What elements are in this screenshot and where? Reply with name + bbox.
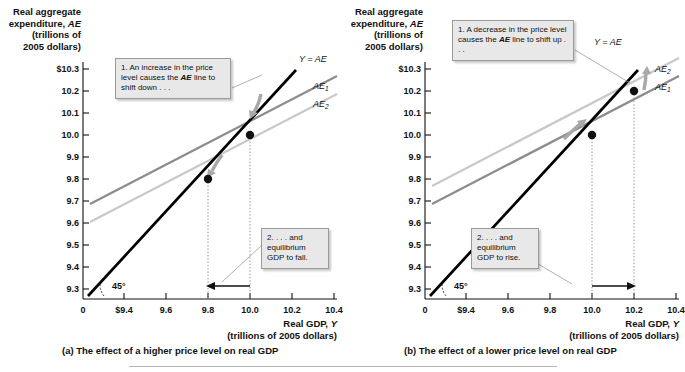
y-tick-label: 9.9 <box>66 152 79 162</box>
y-tick-label: 9.7 <box>66 196 79 206</box>
panel-a-angle-label: 45° <box>112 281 126 291</box>
panel-a-higher-price-level: Real aggregate expenditure, AE (trillion… <box>0 0 343 372</box>
y-tick-label: 9.8 <box>408 174 421 184</box>
y-tick-label: 10.2 <box>61 86 79 96</box>
panel-a-point-new-equilibrium <box>204 175 212 183</box>
panel-a-chart: $10.3 10.2 10.1 10.0 9.9 9.8 9.7 9.6 9.5… <box>0 0 343 372</box>
x-tick-label: 10.0 <box>241 305 259 315</box>
x-axis-title-line-1: Real GDP, Y <box>625 318 679 329</box>
panel-a-callout-1-leader <box>232 75 262 88</box>
y-tick-label: $10.3 <box>398 64 421 74</box>
panel-b-y-tick-labels: $10.3 10.2 10.1 10.0 9.9 9.8 9.7 9.6 9.5… <box>398 64 421 294</box>
panel-a-y-ticks <box>83 69 89 289</box>
y-tick-label: 9.3 <box>408 284 421 294</box>
y-tick-label: 9.6 <box>408 218 421 228</box>
y-tick-label: 9.5 <box>408 240 421 250</box>
y-tick-label: 9.7 <box>408 196 421 206</box>
y-tick-label: 9.3 <box>66 284 79 294</box>
panel-b-callout-1-leader <box>575 50 630 83</box>
panel-b-caption: (b) The effect of a lower price level on… <box>404 345 617 356</box>
y-tick-label: 9.4 <box>408 262 421 272</box>
panel-b-angle-arc <box>442 284 446 296</box>
y-tick-label: 10.1 <box>61 108 79 118</box>
y-tick-label: $10.3 <box>56 64 79 74</box>
x-tick-label: $9.4 <box>115 305 133 315</box>
panel-b-label-AE1: AE1 <box>654 82 671 93</box>
x-tick-label: 9.8 <box>202 305 215 315</box>
x-tick-label: 9.8 <box>544 305 557 315</box>
x-tick-label: 10.0 <box>583 305 601 315</box>
x-tick-label: 10.2 <box>625 305 643 315</box>
panel-b-callout-2: 2. . . . and equilibrium GDP to rise. <box>471 228 539 269</box>
y-tick-label: 10.2 <box>403 86 421 96</box>
x-tick-label: 10.4 <box>325 305 343 315</box>
panel-b-x-axis-title: Real GDP, Y (trillions of 2005 dollars) <box>482 318 679 341</box>
x-tick-label: $9.4 <box>457 305 475 315</box>
x-tick-label: 10.2 <box>283 305 301 315</box>
x-axis-title-line-2: (trillions of 2005 dollars) <box>569 330 679 341</box>
panel-a-x-tick-labels: 0 $9.4 9.6 9.8 10.0 10.2 10.4 <box>80 305 342 315</box>
y-tick-label: 10.1 <box>403 108 421 118</box>
panel-b-label-AE2: AE2 <box>654 64 671 75</box>
panel-a-y-tick-labels: $10.3 10.2 10.1 10.0 9.9 9.8 9.7 9.6 9.5… <box>56 64 79 294</box>
panel-b-callout-1: 1. A decrease in the price level causes … <box>452 20 574 61</box>
panel-b-line-AE2 <box>432 58 679 186</box>
x-axis-title-line-1: Real GDP, Y <box>283 318 337 329</box>
x-origin-label: 0 <box>80 305 85 315</box>
panel-a-angle-arc <box>100 284 104 296</box>
x-tick-label: 9.6 <box>502 305 515 315</box>
x-axis-title-line-2: (trillions of 2005 dollars) <box>227 330 337 341</box>
y-tick-label: 9.8 <box>66 174 79 184</box>
panel-b-line-AE1 <box>432 76 679 204</box>
panel-a-callout-2-leader <box>222 245 262 282</box>
panel-a-caption: (a) The effect of a higher price level o… <box>62 345 278 356</box>
panel-a-gdp-change-arrow <box>206 282 250 290</box>
x-tick-label: 10.4 <box>667 305 685 315</box>
x-tick-label: 9.6 <box>160 305 173 315</box>
panel-a-x-axis-title: Real GDP, Y (trillions of 2005 dollars) <box>140 318 337 341</box>
x-origin-label: 0 <box>422 305 427 315</box>
panel-b-label-Y-equals-AE: Y = AE <box>594 37 623 47</box>
y-tick-label: 9.9 <box>408 152 421 162</box>
panel-b-lower-price-level: Real aggregate expenditure, AE (trillion… <box>342 0 685 372</box>
panel-b-point-new-equilibrium <box>630 87 638 95</box>
panel-a-callout-2: 2. . . . and equilibrium GDP to fall. <box>261 228 329 269</box>
panel-a-label-Y-equals-AE: Y = AE <box>299 54 328 64</box>
y-tick-label: 10.0 <box>61 130 79 140</box>
panel-b-x-ticks <box>466 293 676 299</box>
panel-a-point-initial-equilibrium <box>246 131 254 139</box>
y-tick-label: 9.5 <box>66 240 79 250</box>
figure-bottom-rule <box>129 366 557 367</box>
y-tick-label: 10.0 <box>403 130 421 140</box>
panel-b-gdp-change-arrow <box>592 282 636 290</box>
panel-b-x-tick-labels: 0 $9.4 9.6 9.8 10.0 10.2 10.4 <box>422 305 684 315</box>
panel-a-callout-1: 1. An increase in the price level causes… <box>115 58 231 99</box>
y-tick-label: 9.6 <box>66 218 79 228</box>
panel-b-angle-label: 45° <box>454 281 468 291</box>
y-tick-label: 9.4 <box>66 262 79 272</box>
panel-b-point-initial-equilibrium <box>588 131 596 139</box>
panel-b-y-ticks <box>425 69 431 289</box>
panel-a-x-ticks <box>124 293 334 299</box>
